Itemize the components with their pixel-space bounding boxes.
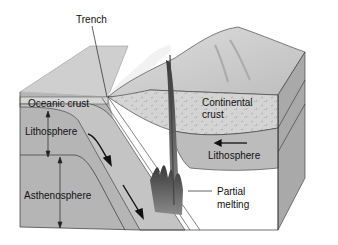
ocean-surface [20, 46, 128, 97]
label-asthenosphere: Asthenosphere [24, 190, 91, 201]
label-partial-melting-1: Partial [217, 186, 245, 197]
label-continental-crust-2: crust [202, 109, 224, 120]
label-continental-crust-1: Continental [202, 97, 253, 108]
label-trench: Trench [76, 14, 107, 25]
subduction-diagram: Trench Oceanic crust Lithosphere Astheno… [0, 0, 338, 245]
label-lithosphere-right: Lithosphere [208, 150, 260, 161]
label-oceanic-crust: Oceanic crust [28, 98, 89, 109]
label-lithosphere-left: Lithosphere [25, 126, 77, 137]
label-partial-melting-2: melting [217, 199, 249, 210]
diagram-graphic [0, 0, 338, 245]
mountain [108, 27, 305, 97]
